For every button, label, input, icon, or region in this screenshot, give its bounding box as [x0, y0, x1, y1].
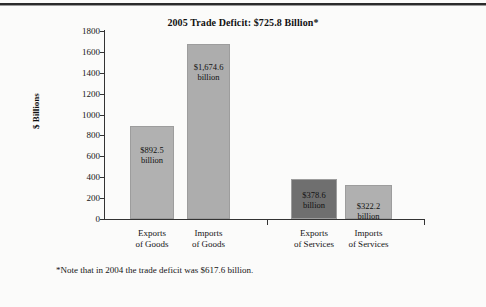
- y-axis-tick-label: 1400: [42, 69, 100, 78]
- bar-exports-of-services: $378.6billion: [291, 179, 337, 219]
- bar-value-unit: billion: [140, 155, 163, 165]
- x-axis-group-separator: [424, 219, 425, 225]
- y-axis-tick-label: 800: [42, 131, 100, 140]
- category-label-line1: Imports: [335, 228, 403, 239]
- bar-value-label: $378.6billion: [302, 190, 325, 210]
- bar-value-unit: billion: [302, 200, 325, 210]
- bar-imports-of-services: $322.2billion: [345, 185, 392, 219]
- x-axis-group-separator: [267, 219, 268, 225]
- category-label-line1: Imports: [175, 228, 243, 239]
- bar-value-label: $322.2billion: [357, 201, 380, 221]
- y-axis-tick-labels: 180016001400120010008006004002000: [36, 0, 100, 307]
- plot-area: $892.5billion$1,674.6billion$378.6billio…: [104, 31, 424, 219]
- bar-value-amount: $378.6: [302, 190, 325, 200]
- bar-imports-of-goods: $1,674.6billion: [187, 44, 230, 219]
- bar-value-amount: $892.5: [140, 145, 163, 155]
- y-axis-tick-label: 0: [42, 215, 100, 224]
- category-label-imports-of-goods: Importsof Goods: [175, 228, 243, 250]
- y-axis-tick-label: 1600: [42, 48, 100, 57]
- y-axis-tick-label: 1800: [42, 27, 100, 36]
- y-axis-tick-label: 600: [42, 152, 100, 161]
- bar-value-label: $1,674.6billion: [194, 62, 224, 82]
- bar-value-amount: $322.2: [357, 201, 380, 211]
- chart-footnote: *Note that in 2004 the trade deficit was…: [56, 265, 436, 275]
- category-label-line2: of Services: [335, 239, 403, 250]
- bar-chart: 2005 Trade Deficit: $725.8 Billion* $ Bi…: [0, 0, 486, 307]
- category-label-line2: of Goods: [175, 239, 243, 250]
- category-label-imports-of-services: Importsof Services: [335, 228, 403, 250]
- bar-value-unit: billion: [194, 72, 224, 82]
- y-axis-tick-label: 200: [42, 194, 100, 203]
- bar-value-amount: $1,674.6: [194, 62, 224, 72]
- bar-exports-of-goods: $892.5billion: [130, 126, 174, 219]
- bar-value-unit: billion: [357, 211, 380, 221]
- y-axis-tick-label: 400: [42, 173, 100, 182]
- scanned-page: 2005 Trade Deficit: $725.8 Billion* $ Bi…: [0, 0, 486, 307]
- y-axis-tick-label: 1200: [42, 90, 100, 99]
- bar-value-label: $892.5billion: [140, 145, 163, 165]
- y-axis-tick-label: 1000: [42, 111, 100, 120]
